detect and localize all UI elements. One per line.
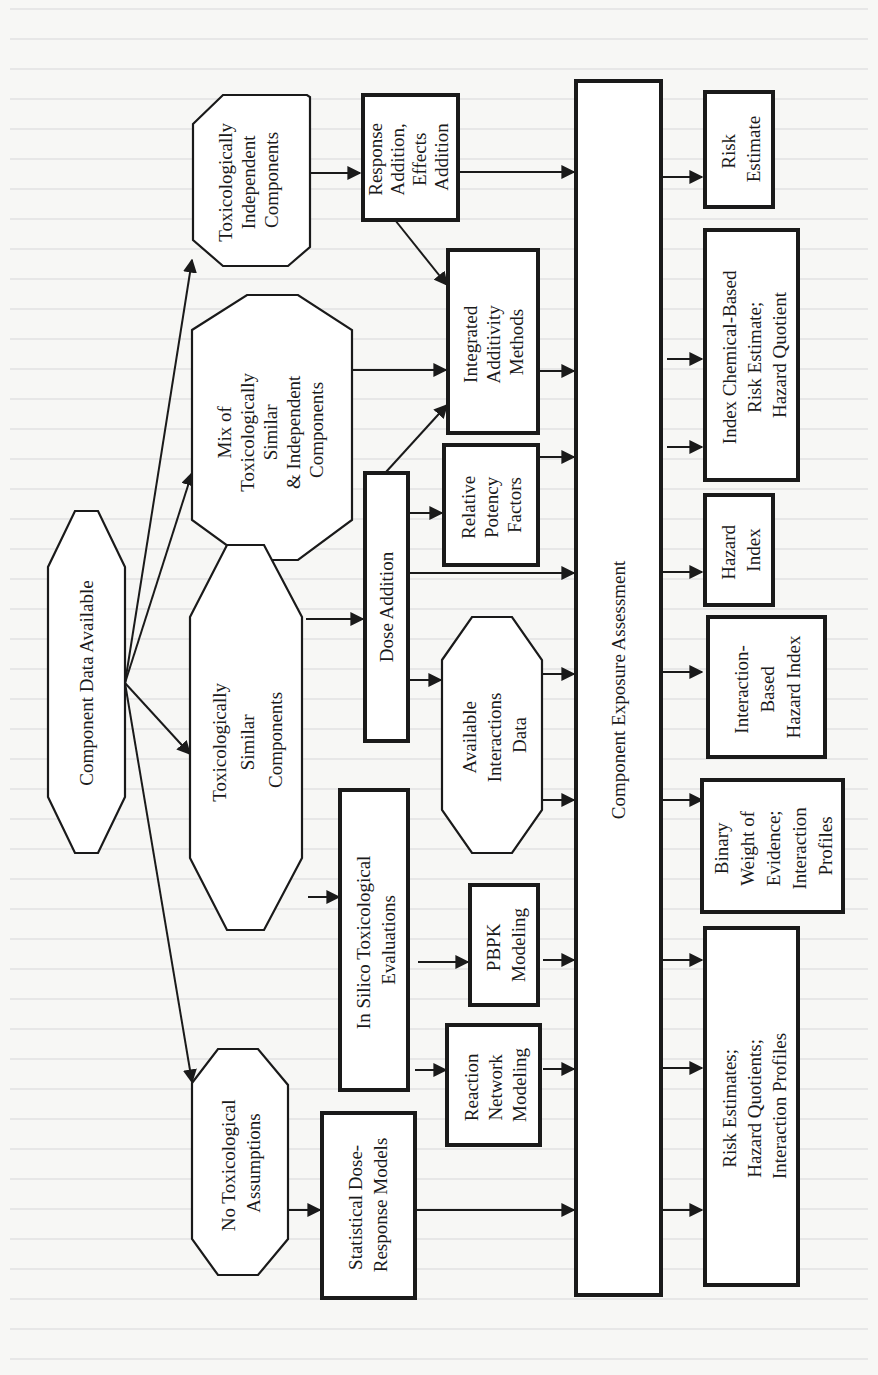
arrow-to-no-assumptions bbox=[125, 683, 192, 1082]
node-reaction-network-modeling: Reaction Network Modeling bbox=[447, 1025, 540, 1145]
node-relative-potency-factors: Relative Potency Factors bbox=[444, 445, 538, 565]
node-tox-independent: Toxicologically Independent Components bbox=[193, 95, 310, 266]
node-tox-similar: Toxicologically Similar Components bbox=[190, 545, 302, 930]
node-label: Response Addition, Effects Addition bbox=[365, 118, 452, 196]
node-label: Toxicologically Independent Components bbox=[215, 118, 282, 242]
node-component-exposure-assessment: Component Exposure Assessment bbox=[576, 81, 661, 1295]
node-risk-estimates-hazard-quotients: Risk Estimates; Hazard Quotients; Intera… bbox=[705, 928, 798, 1285]
node-integrated-additivity-methods: Integrated Additivity Methods bbox=[448, 250, 538, 433]
node-dose-addition: Dose Addition bbox=[365, 473, 408, 741]
arrow-response-to-integrated bbox=[395, 220, 447, 285]
arrow-dose-to-integrated bbox=[386, 405, 447, 472]
node-pbpk-modeling: PBPK Modeling bbox=[470, 885, 538, 1005]
node-statistical-dose-response-models: Statistical Dose- Response Models bbox=[322, 1113, 415, 1298]
arrow-to-tox-independent bbox=[125, 260, 192, 683]
node-mix-similar-independent: Mix of Toxicologically Similar & Indepen… bbox=[192, 295, 352, 560]
node-interaction-based-hazard-index: Interaction- Based Hazard Index bbox=[708, 617, 825, 757]
node-hazard-index: Hazard Index bbox=[705, 495, 773, 605]
node-response-addition: Response Addition, Effects Addition bbox=[363, 95, 458, 220]
node-binary-weight-of-evidence: Binary Weight of Evidence; Interaction P… bbox=[702, 780, 843, 912]
node-no-toxicological-assumptions: No Toxicological Assumptions bbox=[192, 1049, 288, 1275]
node-available-interactions-data: Available Interactions Data bbox=[442, 617, 542, 853]
node-risk-estimate: Risk Estimate bbox=[705, 92, 773, 207]
node-component-data-available: Component Data Available bbox=[48, 511, 125, 853]
node-in-silico-toxicological-evaluations: In Silico Toxicological Evaluations bbox=[340, 790, 408, 1090]
arrow-to-mix bbox=[125, 473, 192, 683]
node-label: Relative Potency Factors bbox=[458, 471, 525, 539]
node-label: Component Exposure Assessment bbox=[608, 560, 629, 819]
node-label: Integrated Additivity Methods bbox=[460, 301, 527, 384]
node-label: Reaction Network Modeling bbox=[461, 1048, 530, 1122]
node-index-chemical-based-risk-estimate: Index Chemical-Based Risk Estimate; Haza… bbox=[705, 230, 798, 480]
flowchart: Component Data Available Toxicologically… bbox=[0, 0, 878, 1375]
node-label: Dose Addition bbox=[376, 551, 397, 662]
node-label: Risk Estimates; Hazard Quotients; Intera… bbox=[719, 1033, 790, 1179]
node-label: Component Data Available bbox=[76, 580, 97, 785]
